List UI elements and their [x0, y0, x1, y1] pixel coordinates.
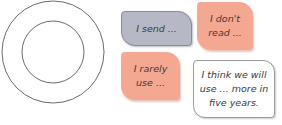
inner-circle	[22, 21, 84, 83]
bubble-i-rarely-use: I rarely use ...	[121, 52, 180, 100]
bubble-i-dont-read: I don't read ...	[197, 2, 253, 50]
bubble-i-think: I think we will use ... more in five yea…	[193, 60, 275, 118]
bubble-text: I rarely use ...	[131, 62, 170, 90]
concentric-circles-diagram	[0, 0, 110, 110]
bubble-i-send: I send ...	[121, 11, 192, 46]
bubble-text: I think we will use ... more in five yea…	[199, 68, 269, 110]
bubble-text: I send ...	[136, 22, 177, 36]
bubble-text: I don't read ...	[205, 12, 245, 40]
outer-circle	[2, 1, 104, 103]
